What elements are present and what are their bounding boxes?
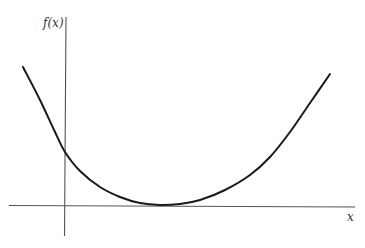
y-axis [65,17,67,236]
function-curve [23,67,330,205]
function-plot: f(x) x [0,0,365,248]
x-axis-label: x [347,210,354,224]
y-axis-label: f(x) [42,16,64,30]
x-axis [9,206,355,208]
